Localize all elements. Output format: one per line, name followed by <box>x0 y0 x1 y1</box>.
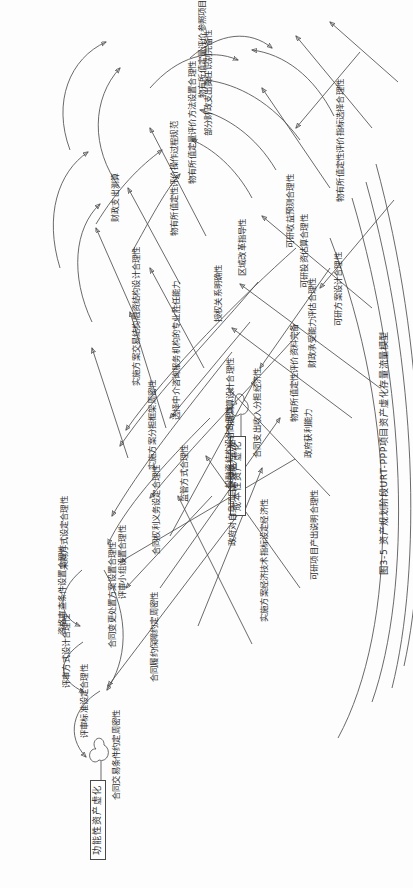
link <box>296 52 360 128</box>
variable-vfm-quantitative-method-setting: 物有所值定量评价方法设置合理性 <box>188 61 196 184</box>
link <box>78 204 100 322</box>
variable-government-profitability: 政府获利能力 <box>304 409 312 458</box>
variable-vfm-qualitative-process-standard: 物有所值定性评价操作过程规范 <box>170 121 178 236</box>
link <box>126 496 212 588</box>
variable-fiscal-affordability-assessment: 财政承受能力评估合理性 <box>308 278 316 368</box>
variable-vfm-qualitative-data-completeness: 物有所值定性评价资料完备 <box>290 324 298 422</box>
variable-contract-performance-guarantee: 合同履约保障约定周密性 <box>150 592 158 682</box>
diagram-canvas: 功能性资产虚化 成本性资产虚化 合同交易条件约定周密性 合同支出收入分担经济性 … <box>0 0 413 888</box>
link <box>330 22 398 82</box>
variable-transaction-financing-structure-design: 实施方案交易结构融资结构设计合理性 <box>132 247 140 386</box>
flow-label-contract-transaction-terms: 合同交易条件约定周密性 <box>112 710 120 800</box>
link <box>206 80 300 140</box>
stock-functional-asset-virtualization: 功能性资产虚化 <box>90 780 106 860</box>
link <box>320 200 394 288</box>
variable-intermediary-consulting-competence: 选择中介咨询服务机构的专业胜任能力 <box>172 281 180 420</box>
flow-label-contract-cost-revenue-sharing: 合同支出收入分担经济性 <box>253 368 261 458</box>
variable-review-panel-setting: 评审小组设置合理性 <box>118 525 126 599</box>
variable-vfm-qualitative-indicator-selection: 物有所值定性评价指标选择合理性 <box>336 79 344 202</box>
link <box>92 348 128 458</box>
link <box>63 42 106 150</box>
variable-contract-rights-obligations: 合同权利义务设定合理性 <box>152 465 160 555</box>
variable-contract-change-disposal-plan: 合同变更处置方案设置合理性 <box>108 541 116 648</box>
variable-supervision-method: 监管方式合理性 <box>180 445 188 502</box>
link <box>178 496 252 644</box>
figure-caption: 图3-5 资产规划阶段URT-PPP项目资产虚化存量流量模型 <box>376 331 390 575</box>
variable-feasibility-investment-estimate: 可研投资估算合理性 <box>300 214 308 288</box>
variable-review-standard-setting: 评审标准设定合理性 <box>80 664 88 738</box>
variable-fiscal-expenditure-responsibility-identification: 部分财政支出责任识别完备性 <box>204 29 212 136</box>
variable-regional-reform-guidance: 区域改革指导性 <box>238 219 246 276</box>
link <box>192 140 252 198</box>
link <box>96 150 162 224</box>
link <box>262 88 330 188</box>
link <box>206 456 300 588</box>
flow-cloud-1 <box>90 738 109 762</box>
link <box>262 216 372 308</box>
variable-feasibility-revenue-forecast: 可研收益预测合理性 <box>286 174 294 248</box>
variable-contract-estimate-design: 合同据测算设计合理性 <box>226 358 234 440</box>
variable-feasibility-output-description: 可研项目产出说明合理性 <box>310 490 318 580</box>
link <box>98 68 120 188</box>
variable-implementation-sharing-framework: 实施方案分担框架周密性 <box>148 380 156 470</box>
link <box>252 50 334 116</box>
variable-fiscal-expenditure-calculation: 财政支出测算 <box>112 173 120 222</box>
variable-procurement-method-setting: 采购方式设定合理性 <box>60 496 68 570</box>
variable-implementation-economic-indicators: 实施方案经济技术指标设定经济性 <box>260 499 268 622</box>
link <box>108 516 237 686</box>
variable-feasibility-scheme-design: 可研方案设计合理性 <box>334 252 342 326</box>
variable-authorization-clarity: 授权关系明确性 <box>214 265 222 322</box>
link <box>53 152 88 268</box>
figure-page: 功能性资产虚化 成本性资产虚化 合同交易条件约定周密性 合同支出收入分担经济性 … <box>0 0 413 888</box>
